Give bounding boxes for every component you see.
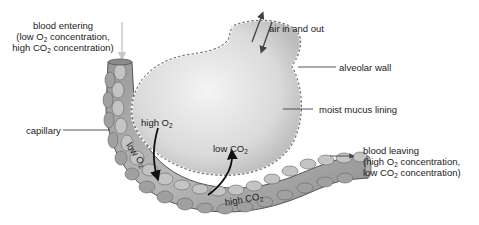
blood-leaving-line2: (high O2 concentration, xyxy=(363,156,461,167)
blood-leaving-line3: low CO2 concentration) xyxy=(363,167,461,178)
blood-entering-line1: blood entering xyxy=(4,20,122,31)
air-label: air in and out xyxy=(269,23,324,34)
blood-leaving-label: blood leaving (high O2 concentration, lo… xyxy=(363,145,461,178)
low-co2-label: low CO2 xyxy=(213,143,248,154)
alveolar-wall-label: alveolar wall xyxy=(339,62,391,73)
capillary-label: capillary xyxy=(26,125,61,136)
high-o2-label: high O2 xyxy=(141,117,173,128)
blood-entering-line2: (low O2 concentration, xyxy=(4,31,122,42)
blood-entering-label: blood entering (low O2 concentration, hi… xyxy=(4,20,122,53)
blood-entering-line3: high CO2 concentration) xyxy=(4,42,122,53)
moist-mucus-label: moist mucus lining xyxy=(319,104,397,115)
blood-leaving-line1: blood leaving xyxy=(363,145,461,156)
